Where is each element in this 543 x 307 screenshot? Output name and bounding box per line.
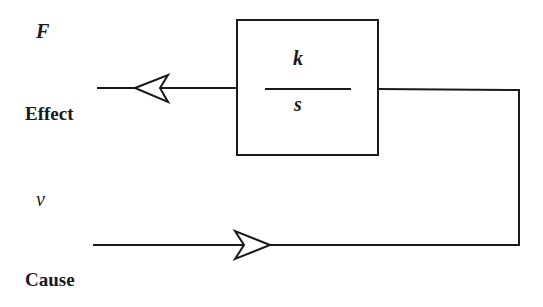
diagram-lines [0, 0, 543, 307]
transfer-function-block [237, 20, 378, 155]
block-denominator: s [294, 93, 302, 116]
block-numerator: k [293, 47, 303, 70]
input-label: Cause [25, 269, 75, 291]
output-label: Effect [25, 103, 74, 125]
input-path-line [93, 89, 519, 245]
block-diagram: F Effect k s v Cause [0, 0, 543, 307]
input-symbol: v [36, 188, 45, 211]
output-symbol: F [36, 20, 49, 43]
